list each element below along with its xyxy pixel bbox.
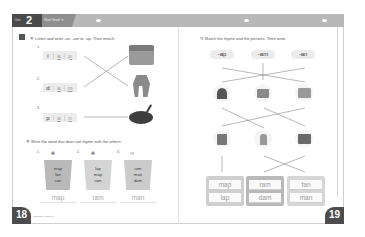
ram-picture[interactable] xyxy=(295,130,313,148)
item-number: 1. xyxy=(37,150,40,154)
dog-picture[interactable] xyxy=(254,84,272,102)
fan-picture[interactable] xyxy=(213,84,231,102)
map-picture[interactable] xyxy=(295,84,313,102)
write-line[interactable]: map xyxy=(209,180,241,190)
man-picture[interactable] xyxy=(254,130,272,148)
write-line[interactable]: dam xyxy=(249,193,281,203)
write-box-1: map lap xyxy=(206,176,244,206)
word: ram xyxy=(95,178,102,184)
plant-icon: ♣ xyxy=(51,150,55,156)
exercise2-instruction: ⑨ Write the word that does not rhyme wit… xyxy=(26,139,122,144)
write-line[interactable]: ram xyxy=(249,180,281,190)
word: dam xyxy=(134,178,142,184)
write-box-2: ram dam xyxy=(246,176,284,206)
page-number-right: 19 xyxy=(325,207,344,224)
exercise3-instruction: ⑩ Match the rhyme and the pictures. Then… xyxy=(200,36,286,41)
footer-text: Phonics 1, Book 2 xyxy=(33,215,53,218)
write-line[interactable]: man xyxy=(290,193,322,203)
word-column-1: map fan can xyxy=(44,160,72,190)
word-column-3: ram man dam xyxy=(124,160,152,190)
write-box-3: fan man xyxy=(287,176,325,206)
rhyme-pill-an: -an xyxy=(291,50,315,59)
rhyme-pill-am: -am xyxy=(251,50,275,59)
word: can xyxy=(55,178,61,184)
cat-picture[interactable] xyxy=(213,130,231,148)
answer-line-1[interactable]: map xyxy=(40,194,76,203)
word-column-2: lap map ram xyxy=(84,160,112,190)
plant-icon: ♣ xyxy=(91,150,95,156)
page-number-left: 18 xyxy=(12,207,31,224)
item-number: 3. xyxy=(117,150,120,154)
write-line[interactable]: lap xyxy=(209,193,241,203)
write-line[interactable]: fan xyxy=(290,180,322,190)
answer-line-2[interactable]: ram xyxy=(80,194,116,203)
item-number: 2. xyxy=(77,150,80,154)
bow-icon: ∞ xyxy=(130,150,134,156)
rhyme-pill-ap: -ap xyxy=(210,50,234,59)
answer-line-3[interactable]: man xyxy=(120,194,156,203)
